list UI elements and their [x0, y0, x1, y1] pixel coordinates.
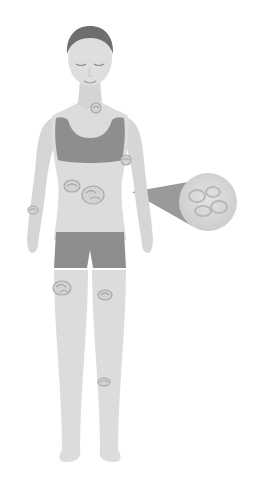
- lesion-right-thigh: [98, 290, 112, 300]
- lesion-left-thigh: [53, 281, 71, 295]
- lesion-right-shin: [98, 378, 110, 386]
- right-arm: [124, 118, 153, 253]
- left-arm: [27, 118, 56, 253]
- lesion-neck: [91, 103, 101, 113]
- lesion-left-forearm: [28, 206, 38, 214]
- skin-lesion-body-illustration: [0, 0, 257, 484]
- shorts: [54, 232, 126, 268]
- lesion-center-abdomen: [82, 186, 104, 204]
- lesion-left-abdomen: [64, 180, 80, 192]
- lesion-right-upper-arm: [121, 155, 131, 165]
- callout-magnified-lesion-circle: [179, 173, 237, 231]
- woman-figure: [27, 26, 153, 462]
- left-leg: [54, 270, 88, 462]
